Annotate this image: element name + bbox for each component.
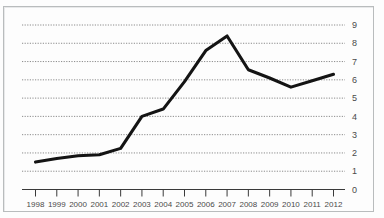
y-tick-label-2: 2 xyxy=(352,148,357,158)
x-tick-marks-group xyxy=(36,190,334,197)
x-tick-label-2010: 2010 xyxy=(282,200,300,209)
y-axis-labels-group: 0123456789 xyxy=(352,20,357,195)
x-tick-label-2009: 2009 xyxy=(261,200,279,209)
x-tick-label-2002: 2002 xyxy=(112,200,130,209)
y-tick-label-6: 6 xyxy=(352,75,357,85)
y-tick-label-9: 9 xyxy=(352,20,357,30)
y-tick-label-3: 3 xyxy=(352,130,357,140)
x-tick-label-2008: 2008 xyxy=(239,200,257,209)
x-tick-label-2007: 2007 xyxy=(218,200,236,209)
y-tick-label-4: 4 xyxy=(352,112,357,122)
y-tick-label-5: 5 xyxy=(352,93,357,103)
x-tick-label-1999: 1999 xyxy=(48,200,66,209)
x-tick-label-2005: 2005 xyxy=(176,200,194,209)
x-tick-label-2000: 2000 xyxy=(69,200,87,209)
y-tick-label-1: 1 xyxy=(352,166,357,176)
chart-svg: 0123456789 19981999200020012002200320042… xyxy=(0,0,384,218)
y-tick-label-8: 8 xyxy=(352,38,357,48)
chart-page: 0123456789 19981999200020012002200320042… xyxy=(0,0,384,218)
x-tick-label-2003: 2003 xyxy=(133,200,151,209)
x-tick-label-2006: 2006 xyxy=(197,200,215,209)
data-series-line xyxy=(36,36,334,162)
y-tick-label-0: 0 xyxy=(352,185,357,195)
x-axis-labels-group: 1998199920002001200220032004200520062007… xyxy=(27,200,343,209)
y-tick-label-7: 7 xyxy=(352,57,357,67)
x-tick-label-2001: 2001 xyxy=(90,200,108,209)
x-tick-label-2011: 2011 xyxy=(304,200,322,209)
line-chart: 0123456789 19981999200020012002200320042… xyxy=(0,0,384,218)
x-tick-label-2004: 2004 xyxy=(154,200,172,209)
x-tick-label-1998: 1998 xyxy=(27,200,45,209)
x-tick-label-2012: 2012 xyxy=(325,200,343,209)
gridlines-group xyxy=(22,25,345,171)
